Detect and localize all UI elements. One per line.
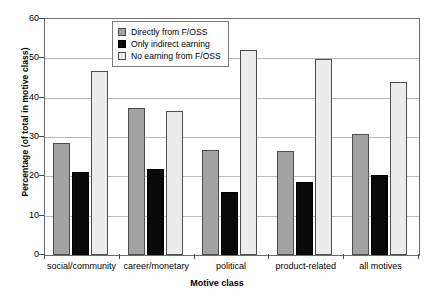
x-tick-label: career/monetary (119, 261, 194, 272)
bar-group (269, 19, 344, 255)
legend-swatch-icon (118, 52, 126, 60)
chart-legend: Directly from F/OSSOnly indirect earning… (112, 21, 229, 67)
y-tick-label: 0 (9, 250, 39, 259)
x-tick-mark (119, 254, 120, 259)
y-tick-mark (39, 57, 44, 58)
bar (72, 172, 89, 255)
bar (221, 192, 238, 255)
y-tick-label: 20 (9, 171, 39, 180)
y-tick-label: 10 (9, 211, 39, 220)
y-tick-label: 60 (9, 14, 39, 23)
bar (240, 50, 257, 255)
y-tick-label: 30 (9, 132, 39, 141)
legend-label: Only indirect earning (131, 39, 210, 49)
x-tick-mark (418, 254, 419, 259)
legend-item: Directly from F/OSS (118, 26, 221, 38)
x-tick-label: political (194, 261, 269, 272)
y-axis-title: Percentage (of total in motive class) (20, 4, 30, 240)
bars-layer (45, 19, 419, 255)
x-tick-mark (194, 254, 195, 259)
bar (128, 108, 145, 256)
bar-chart: Percentage (of total in motive class) 01… (0, 0, 434, 300)
bar (315, 59, 332, 255)
legend-swatch-icon (118, 40, 126, 48)
y-tick-mark (39, 18, 44, 19)
bar (91, 71, 108, 255)
legend-item: Only indirect earning (118, 38, 221, 50)
bar-group (45, 19, 120, 255)
x-tick-label: all motives (343, 261, 418, 272)
x-tick-label: product-related (268, 261, 343, 272)
x-tick-mark (44, 254, 45, 259)
legend-label: Directly from F/OSS (131, 27, 207, 37)
y-tick-mark (39, 97, 44, 98)
x-tick-label: social/community (44, 261, 119, 272)
legend-item: No earning from F/OSS (118, 50, 221, 62)
y-tick-mark (39, 136, 44, 137)
x-tick-mark (343, 254, 344, 259)
y-tick-label: 50 (9, 53, 39, 62)
x-axis-title: Motive class (0, 278, 434, 288)
bar (202, 150, 219, 255)
bar (352, 134, 369, 255)
bar (277, 151, 294, 255)
y-tick-mark (39, 175, 44, 176)
bar (166, 111, 183, 255)
y-tick-mark (39, 215, 44, 216)
legend-swatch-icon (118, 28, 126, 36)
x-tick-mark (268, 254, 269, 259)
y-tick-label: 40 (9, 93, 39, 102)
bar-group (344, 19, 419, 255)
bar (390, 82, 407, 255)
legend-label: No earning from F/OSS (131, 51, 221, 61)
plot-area (44, 18, 420, 256)
bar (371, 175, 388, 255)
bar (296, 182, 313, 255)
bar (147, 169, 164, 255)
bar (53, 143, 70, 255)
